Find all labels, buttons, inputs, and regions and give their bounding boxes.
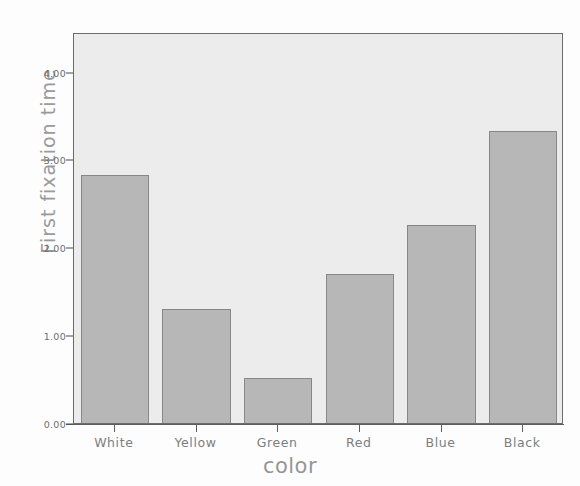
y-tick-mark <box>66 160 73 161</box>
y-tick-label: 2.00 <box>22 243 66 254</box>
y-axis-ticks: 0.001.002.003.004.00 <box>22 0 66 486</box>
y-tick-label: 3.00 <box>22 155 66 166</box>
x-tick-label-black: Black <box>467 435 577 450</box>
bar-red <box>326 274 394 424</box>
y-tick-label: 1.00 <box>22 331 66 342</box>
y-tick-mark <box>66 248 73 249</box>
bar-white <box>81 175 149 424</box>
y-tick-label: 0.00 <box>22 419 66 430</box>
x-tick-mark <box>277 424 278 432</box>
bar-blue <box>407 225 475 424</box>
x-tick-mark <box>359 424 360 432</box>
x-tick-mark <box>441 424 442 432</box>
x-tick-mark <box>196 424 197 432</box>
y-tick-label: 4.00 <box>22 67 66 78</box>
x-axis-line <box>66 424 564 425</box>
bar-chart: First fixation time 0.001.002.003.004.00… <box>0 0 580 486</box>
bars-layer <box>74 34 562 423</box>
y-tick-mark <box>66 424 73 425</box>
bar-green <box>244 378 312 424</box>
y-tick-mark <box>66 72 73 73</box>
y-tick-mark <box>66 336 73 337</box>
x-axis-title: color <box>0 454 580 478</box>
bar-black <box>489 131 557 424</box>
x-tick-mark <box>114 424 115 432</box>
plot-area <box>73 33 563 424</box>
bar-yellow <box>162 309 230 424</box>
x-tick-mark <box>522 424 523 432</box>
